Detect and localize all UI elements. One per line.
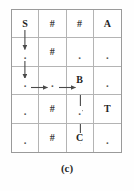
grid-cell-r5c2[interactable]: # (39, 124, 66, 152)
grid-cell-r2c4[interactable]: . (94, 38, 121, 66)
grid-cell-r2c2[interactable]: # (39, 38, 66, 66)
figure-c: S # # A . # . . . . B . . # . T . # C . (0, 0, 134, 191)
cell-label-r5c3: C (75, 133, 84, 143)
cell-label-r3c2: . (50, 78, 55, 89)
grid-cell-r3c2[interactable]: . (39, 67, 66, 95)
grid-cell-r5c4[interactable]: . (94, 124, 121, 152)
cell-label-r4c3: . (77, 106, 82, 117)
cell-label-r1c4: A (103, 19, 112, 29)
cell-label-r5c2: # (49, 133, 56, 143)
grid-cell-r3c3[interactable]: B (67, 67, 94, 95)
cell-label-r4c2: # (49, 104, 56, 114)
grid-cell-r4c3[interactable]: . (67, 95, 94, 123)
cell-label-r1c2: # (49, 19, 56, 29)
cell-label-r5c1: . (23, 135, 28, 146)
grid-cell-r4c4[interactable]: T (94, 95, 121, 123)
grid-cell-r5c1[interactable]: . (12, 124, 39, 152)
gridworld-grid: S # # A . # . . . . B . . # . T . # C . (11, 9, 122, 153)
grid-cell-r3c4[interactable]: . (94, 67, 121, 95)
cell-label-r3c1: . (23, 78, 28, 89)
grid-cell-r4c2[interactable]: # (39, 95, 66, 123)
cell-label-r1c1: S (21, 19, 29, 29)
grid-cell-r1c1[interactable]: S (12, 10, 39, 38)
cell-label-r3c3: B (75, 75, 84, 85)
grid-cell-r2c1[interactable]: . (12, 38, 39, 66)
grid-cell-r1c4[interactable]: A (94, 10, 121, 38)
cell-label-r2c4: . (105, 50, 110, 61)
grid-cell-r1c3[interactable]: # (67, 10, 94, 38)
figure-caption: (c) (0, 162, 134, 174)
grid-cell-r1c2[interactable]: # (39, 10, 66, 38)
cell-label-r2c2: # (49, 47, 56, 57)
cell-label-r2c1: . (23, 50, 28, 61)
cell-label-r2c3: . (77, 50, 82, 61)
cell-label-r4c1: . (23, 106, 28, 117)
grid-cell-r2c3[interactable]: . (67, 38, 94, 66)
cell-label-r4c4: T (103, 104, 112, 114)
grid-cell-r3c1[interactable]: . (12, 67, 39, 95)
cell-label-r5c4: . (105, 135, 110, 146)
cell-label-r1c3: # (76, 19, 83, 29)
grid-cell-r4c1[interactable]: . (12, 95, 39, 123)
grid-cell-r5c3[interactable]: C (67, 124, 94, 152)
cell-label-r3c4: . (105, 78, 110, 89)
